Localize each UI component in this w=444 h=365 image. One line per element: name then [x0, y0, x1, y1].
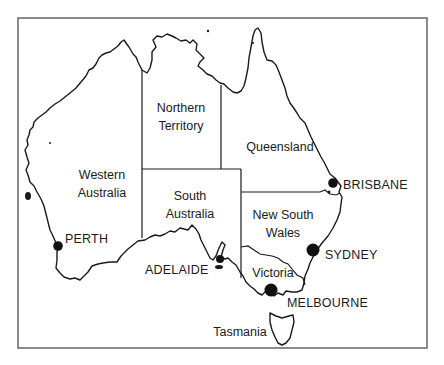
state-name-line1: Queensland	[230, 140, 330, 155]
label-victoria: Victoria	[243, 266, 303, 281]
label-melbourne: MELBOURNE	[287, 296, 368, 311]
mainland-coastline	[25, 28, 342, 296]
tasmania-outline	[270, 313, 294, 345]
brisbane-dot	[328, 178, 338, 188]
label-western-australia: Western Australia	[57, 168, 147, 201]
state-name-line2: Australia	[150, 207, 230, 222]
label-queensland: Queensland	[230, 140, 330, 155]
sydney-dot	[307, 244, 320, 257]
state-name-line1: Northern	[147, 101, 215, 116]
label-brisbane: BRISBANE	[343, 178, 408, 193]
state-name-line1: Western	[57, 168, 147, 183]
state-name-line1: Tasmania	[210, 325, 270, 340]
border-qld-nsw	[241, 190, 340, 195]
state-name-line2: Wales	[243, 226, 323, 241]
melbourne-dot	[265, 284, 278, 297]
label-northern-territory: Northern Territory	[147, 101, 215, 134]
label-south-australia: South Australia	[150, 189, 230, 222]
label-sydney: SYDNEY	[325, 248, 378, 263]
adelaide-dot	[216, 255, 224, 263]
state-name-line1: Victoria	[243, 266, 303, 281]
perth-dot	[53, 241, 63, 251]
state-name-line1: South	[150, 189, 230, 204]
label-new-south-wales: New South Wales	[243, 208, 323, 241]
label-adelaide: ADELAIDE	[145, 263, 208, 278]
state-name-line2: Australia	[57, 186, 147, 201]
label-perth: PERTH	[65, 232, 108, 247]
state-name-line1: New South	[243, 208, 323, 223]
label-tasmania: Tasmania	[210, 325, 270, 340]
state-name-line2: Territory	[147, 119, 215, 134]
